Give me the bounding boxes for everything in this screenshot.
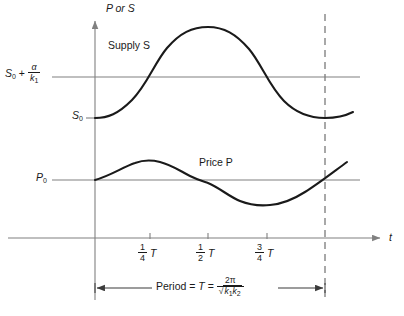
curve-label-supply: Supply S (108, 40, 150, 51)
x-axis-label-text: t (389, 231, 392, 243)
period-annotation-text: Period = (156, 280, 195, 292)
x-axis-tick-label-half: 1 2 T (196, 243, 214, 265)
tick-half-denominator: 2 (196, 253, 205, 263)
tick-quarter-denominator: 4 (138, 253, 147, 263)
supply-equilibrium-numerator: α (32, 62, 37, 72)
period-annotation-symbol: T (198, 280, 204, 292)
tick-threequarter-denominator: 4 (255, 253, 264, 263)
y-axis-label-text: P or S (106, 2, 135, 14)
price-initial-base: P (36, 171, 43, 183)
price-initial-subscript: 0 (43, 177, 47, 184)
supply-initial-subscript: 0 (79, 115, 83, 122)
tick-threequarter-unit: T (267, 247, 273, 259)
tick-quarter-fraction: 1 4 (138, 242, 147, 264)
tick-threequarter-fraction: 3 4 (255, 242, 264, 264)
supply-equilibrium-denominator-subscript: 1 (34, 77, 38, 84)
supply-equilibrium-base-subscript: 0 (12, 73, 16, 80)
curve-label-price: Price P (199, 157, 233, 168)
curve-label-supply-text: Supply S (108, 39, 150, 51)
tick-quarter-unit: T (150, 247, 156, 259)
period-annotation-k1-subscript: 1 (229, 290, 233, 297)
tick-threequarter-numerator: 3 (255, 242, 264, 253)
tick-half-numerator: 1 (196, 242, 205, 253)
supply-equilibrium-base: S (5, 67, 12, 79)
tick-half-fraction: 1 2 (196, 242, 205, 264)
axis-value-supply-initial: S0 (72, 110, 83, 121)
period-annotation-equals: = (208, 280, 214, 292)
tick-quarter-numerator: 1 (138, 242, 147, 253)
figure-container: P or S t Supply S Price P S0 + α k1 S0 P… (0, 0, 404, 316)
y-axis-label: P or S (106, 3, 135, 14)
tick-half-unit: T (208, 247, 214, 259)
supply-equilibrium-fraction: α k1 (28, 62, 40, 84)
period-annotation-fraction: 2π √k1k2 (217, 276, 244, 297)
supply-initial-base: S (72, 109, 79, 121)
period-annotation-k2-subscript: 2 (237, 290, 241, 297)
axis-value-price-initial: P0 (36, 172, 47, 183)
period-annotation: Period = T = 2π √k1k2 (156, 277, 244, 298)
x-axis-tick-label-quarter: 1 4 T (138, 243, 156, 265)
period-annotation-denominator: √k1k2 (217, 287, 244, 297)
x-axis-label: t (389, 232, 392, 243)
x-axis-tick-label-threequarter: 3 4 T (255, 243, 273, 265)
curve-label-price-text: Price P (199, 156, 233, 168)
supply-equilibrium-plus: + (19, 67, 25, 79)
axis-value-supply-equilibrium: S0 + α k1 (5, 63, 40, 85)
